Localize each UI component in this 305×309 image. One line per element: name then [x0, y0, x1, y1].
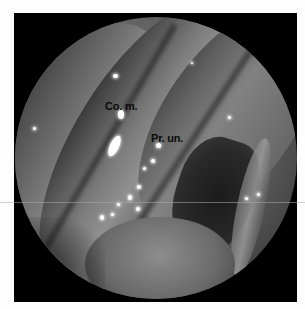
specular-highlight: [113, 74, 118, 78]
specular-highlight: [111, 213, 114, 216]
specular-highlight: [245, 197, 248, 200]
label-concha-media: Co. m.: [105, 100, 137, 112]
image-frame: [14, 13, 297, 302]
specular-highlight: [191, 62, 193, 64]
specular-highlight: [33, 127, 36, 130]
specular-highlight: [128, 195, 132, 200]
specular-highlight: [136, 207, 140, 211]
specular-highlight: [228, 116, 231, 119]
endoscopic-view: [15, 17, 297, 299]
specular-highlight: [151, 159, 155, 163]
specular-highlight: [117, 203, 120, 206]
shadow-region: [15, 217, 105, 299]
label-processus-uncinatus: Pr. un.: [151, 132, 183, 144]
specular-highlight: [137, 185, 141, 189]
specular-highlight: [100, 215, 104, 220]
specular-highlight: [257, 193, 260, 196]
scan-line-artifact: [0, 202, 305, 203]
specular-highlight: [143, 167, 146, 170]
